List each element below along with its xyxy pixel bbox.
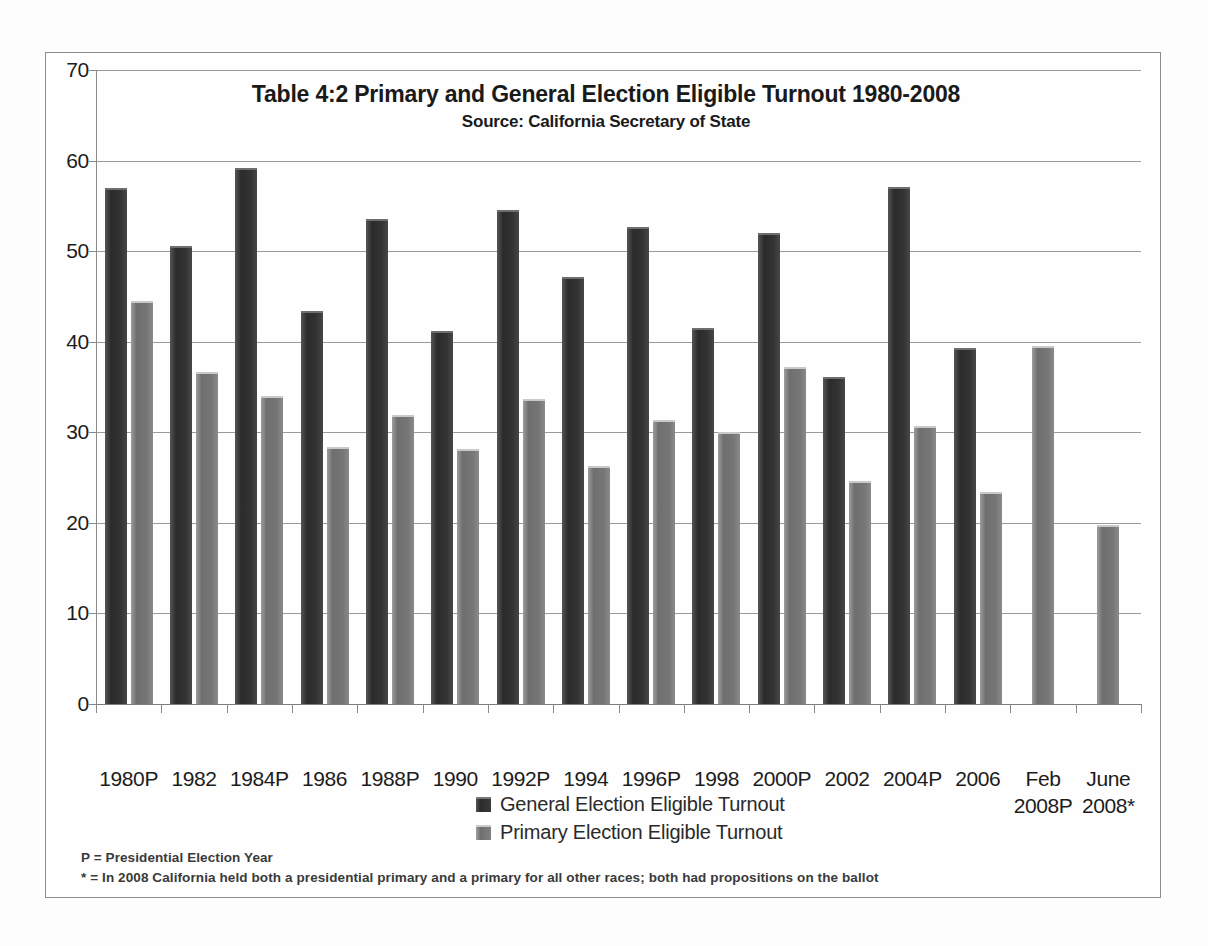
- bar-primary-1984P: [261, 396, 283, 704]
- gridline-70: [96, 70, 1141, 71]
- y-tick-mark-40: [89, 342, 97, 343]
- y-axis-line: [96, 70, 97, 704]
- x-tick-mark-4: [423, 704, 424, 713]
- bar-primary-1988P: [392, 415, 414, 704]
- footnote-2008-asterisk: * = In 2008 California held both a presi…: [81, 868, 1141, 888]
- bar-primary-1994: [588, 466, 610, 704]
- y-tick-label-30: 30: [49, 420, 89, 444]
- y-tick-mark-60: [89, 161, 97, 162]
- bar-primary-2002: [849, 481, 871, 704]
- x-tick-mark-5: [488, 704, 489, 713]
- y-tick-mark-10: [89, 613, 97, 614]
- bar-general-1992P: [497, 210, 519, 704]
- bar-general-1980P: [105, 188, 127, 704]
- y-tick-mark-20: [89, 523, 97, 524]
- bar-primary-1986: [327, 447, 349, 704]
- y-tick-label-60: 60: [49, 149, 89, 173]
- y-tick-label-50: 50: [49, 239, 89, 263]
- bar-general-2004P: [888, 187, 910, 704]
- bar-general-2002: [823, 377, 845, 704]
- bar-primary-June2008: [1097, 525, 1119, 704]
- chart-frame: Table 4:2 Primary and General Election E…: [45, 52, 1161, 898]
- x-tick-mark-11: [880, 704, 881, 713]
- y-tick-mark-30: [89, 432, 97, 433]
- legend-item-general[interactable]: General Election Eligible Turnout: [476, 790, 785, 818]
- bar-primary-2004P: [914, 426, 936, 704]
- bar-general-1996P: [627, 227, 649, 704]
- x-tick-mark-10: [814, 704, 815, 713]
- x-tick-mark-9: [749, 704, 750, 713]
- legend-swatch-general-icon: [476, 797, 491, 812]
- y-tick-mark-70: [89, 70, 97, 71]
- x-tick-mark-15: [1141, 704, 1142, 713]
- x-tick-mark-3: [357, 704, 358, 713]
- y-tick-mark-50: [89, 251, 97, 252]
- scanned-page: Table 4:2 Primary and General Election E…: [0, 0, 1208, 946]
- legend-label-primary: Primary Election Eligible Turnout: [500, 821, 782, 844]
- y-tick-label-40: 40: [49, 330, 89, 354]
- x-tick-mark-13: [1010, 704, 1011, 713]
- y-tick-label-20: 20: [49, 511, 89, 535]
- bar-primary-1998: [718, 432, 740, 704]
- legend-label-general: General Election Eligible Turnout: [500, 793, 785, 816]
- bar-primary-1992P: [523, 399, 545, 704]
- gridline-60: [96, 161, 1141, 162]
- x-tick-mark-6: [553, 704, 554, 713]
- bar-general-2006: [954, 348, 976, 704]
- chart-legend: General Election Eligible Turnout Primar…: [476, 790, 785, 846]
- bar-primary-2006: [980, 492, 1002, 704]
- bar-general-1998: [692, 328, 714, 704]
- x-tick-mark-8: [684, 704, 685, 713]
- bar-general-1990: [431, 331, 453, 704]
- x-tick-label-June2008: June 2008*: [1070, 765, 1147, 819]
- y-tick-label-10: 10: [49, 601, 89, 625]
- bar-primary-2000P: [784, 367, 806, 704]
- x-tick-mark-14: [1076, 704, 1077, 713]
- bar-general-1982: [170, 246, 192, 704]
- bar-primary-Feb2008P: [1032, 346, 1054, 704]
- bar-general-2000P: [758, 233, 780, 704]
- bar-general-1986: [301, 311, 323, 704]
- y-tick-label-0: 0: [49, 692, 89, 716]
- bar-primary-1980P: [131, 301, 153, 704]
- x-tick-mark-1: [227, 704, 228, 713]
- footnote-presidential-year: P = Presidential Election Year: [81, 848, 1141, 868]
- y-tick-label-70: 70: [49, 58, 89, 82]
- x-tick-mark-0: [161, 704, 162, 713]
- legend-item-primary[interactable]: Primary Election Eligible Turnout: [476, 818, 785, 846]
- bar-general-1984P: [235, 168, 257, 704]
- x-tick-mark-origin: [96, 704, 97, 713]
- legend-swatch-primary-icon: [476, 825, 491, 840]
- bar-primary-1982: [196, 372, 218, 704]
- x-tick-mark-7: [619, 704, 620, 713]
- x-tick-mark-12: [945, 704, 946, 713]
- bar-general-1994: [562, 277, 584, 704]
- bar-primary-1996P: [653, 420, 675, 704]
- x-tick-mark-2: [292, 704, 293, 713]
- plot-area: 010203040506070: [96, 70, 1141, 704]
- bar-primary-1990: [457, 449, 479, 704]
- chart-footnotes: P = Presidential Election Year * = In 20…: [81, 848, 1141, 888]
- bar-general-1988P: [366, 219, 388, 704]
